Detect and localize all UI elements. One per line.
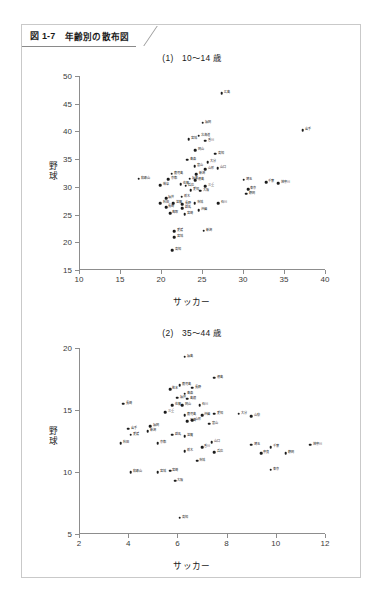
data-point: [208, 422, 211, 425]
data-point-label: 佐賀: [175, 403, 181, 406]
data-point: [206, 161, 209, 164]
data-point-label: 大阪: [203, 189, 209, 192]
data-point-label: 埼玉: [254, 443, 260, 446]
data-point: [211, 441, 214, 444]
panel-1-x-tick: [161, 270, 162, 274]
data-point: [181, 203, 184, 206]
data-point-label: 宮崎: [187, 212, 193, 215]
data-point: [167, 178, 170, 181]
data-point: [202, 121, 205, 124]
data-point-label: 京都: [171, 177, 177, 180]
data-point: [186, 398, 189, 401]
figure-frame: 図 1-7 年齢別の散布図 (1) 10〜14 歳 野球 サッカー 152025…: [21, 24, 361, 578]
panel-1-y-tick: [75, 159, 79, 160]
panel-1-x-tick: [325, 270, 326, 274]
data-point: [165, 197, 168, 200]
data-point-label: 広島: [190, 419, 196, 422]
panel-1-y-tick: [75, 242, 79, 243]
data-point-label: 埼玉: [246, 178, 252, 181]
data-point-label: 福岡: [205, 121, 211, 124]
data-point: [186, 158, 189, 161]
data-point-label: 和歌山: [141, 177, 150, 180]
panel-1-x-tick: [202, 270, 203, 274]
data-point-label: 千葉: [268, 181, 274, 184]
data-point: [191, 386, 194, 389]
data-point-label: 山口: [220, 166, 226, 169]
panel-2-x-tick-label: 6: [175, 539, 179, 548]
data-point-label: 山形: [208, 167, 214, 170]
data-point: [194, 179, 197, 182]
data-point: [169, 388, 172, 391]
data-point-label: 福岡: [153, 424, 159, 427]
data-point: [159, 202, 162, 205]
panel-1-x-tick-label: 30: [239, 275, 248, 284]
data-point: [171, 434, 174, 437]
panel-1-x-tick-label: 15: [116, 275, 125, 284]
data-point: [214, 152, 217, 155]
data-point: [220, 92, 223, 95]
data-point: [193, 202, 196, 205]
data-point: [260, 452, 263, 455]
data-point: [270, 446, 273, 449]
data-point-label: 徳島: [198, 179, 204, 182]
panel-2-title: (2) 35〜44 歳: [22, 326, 362, 338]
panel-1-y-tick: [75, 215, 79, 216]
data-point: [170, 172, 173, 175]
data-point: [198, 404, 201, 407]
data-point-label: 鳥取: [172, 212, 178, 215]
panel-1-y-tick: [75, 104, 79, 105]
data-point: [265, 181, 268, 184]
panel-1-y-axis-title: 野球: [48, 162, 58, 181]
data-point: [250, 443, 253, 446]
scatter-panel-1: (1) 10〜14 歳 野球 サッカー 15202530354045501015…: [22, 47, 362, 322]
data-point-label: 富山: [212, 422, 218, 425]
data-point: [183, 213, 186, 216]
panel-2-x-tick: [325, 534, 326, 538]
panel-1-y-axis-line: [79, 76, 80, 270]
data-point-label: 岡山: [185, 403, 191, 406]
data-point-label: 福井: [180, 396, 186, 399]
scatter-panel-2: (2) 35〜44 歳 野球 サッカー 510152024681012福島徳島鹿…: [22, 322, 362, 578]
panel-2-plot-area: 510152024681012福島徳島鹿児島長野熊本青森福井島根佐賀岡山石川長崎…: [79, 348, 325, 534]
panel-2-x-tick: [128, 534, 129, 538]
figure-number: 図 1-7: [30, 29, 56, 42]
data-point: [188, 177, 191, 180]
panel-2-x-tick-label: 2: [77, 539, 81, 548]
data-point: [201, 446, 204, 449]
data-point-label: 愛媛: [133, 433, 139, 436]
panel-1-x-tick-label: 20: [157, 275, 166, 284]
panel-2-x-axis-title: サッカー: [22, 559, 362, 571]
data-point: [270, 468, 273, 471]
data-point-label: 富山: [197, 165, 203, 168]
data-point-label: 岩手: [305, 129, 311, 132]
data-point: [181, 404, 184, 407]
panel-1-y-tick-label: 25: [63, 210, 72, 219]
data-point: [173, 236, 176, 239]
data-point: [196, 460, 199, 463]
figure-title-bar: 図 1-7 年齢別の散布図: [22, 25, 360, 47]
data-point-label: 栃木: [184, 195, 190, 198]
data-point-label: 山口: [214, 441, 220, 444]
data-point-label: 京都: [160, 442, 166, 445]
data-point-label: 群馬: [175, 433, 181, 436]
data-point: [302, 129, 305, 132]
data-point: [138, 177, 141, 180]
figure-title: 年齢別の散布図: [65, 30, 130, 42]
data-point-label: 神奈川: [281, 181, 290, 184]
data-point: [217, 202, 220, 205]
data-point-label: 岩手: [131, 427, 137, 430]
data-point-label: 千葉: [273, 445, 279, 448]
data-point-label: 静岡: [288, 452, 294, 455]
panel-1-y-tick-label: 45: [63, 99, 72, 108]
panel-1-x-tick: [284, 270, 285, 274]
data-point: [216, 167, 219, 170]
panel-1-y-tick-label: 15: [63, 266, 72, 275]
data-point-label: 沖縄: [204, 413, 210, 416]
data-point-label: 香川: [204, 445, 210, 448]
data-point: [171, 404, 174, 407]
data-point-label: 長崎: [126, 402, 132, 405]
data-point: [129, 471, 132, 474]
data-point-label: 北海道: [201, 134, 210, 137]
panel-1-y-tick-label: 40: [63, 127, 72, 136]
data-point-label: 大阪: [177, 479, 183, 482]
